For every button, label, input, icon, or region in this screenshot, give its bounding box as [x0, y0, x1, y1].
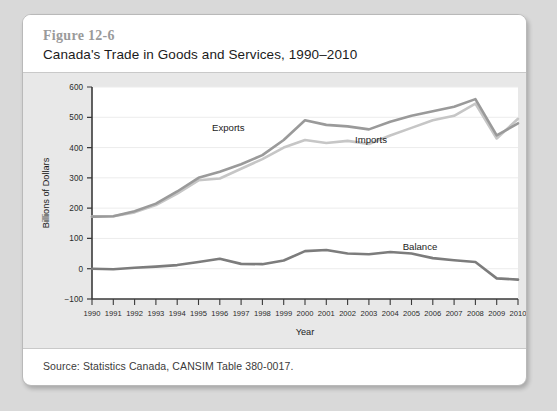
figure-source: Source: Statistics Canada, CANSIM Table …: [43, 360, 526, 372]
x-axis-tick-label: 1996: [211, 309, 228, 318]
x-axis-title: Year: [296, 327, 315, 337]
x-axis-tick-label: 2008: [467, 309, 484, 318]
y-axis-tick-label: 200: [69, 204, 83, 213]
y-axis-tick-label: 400: [69, 143, 83, 152]
line-chart: 6005004003002001000−100Billions of Dolla…: [23, 73, 526, 348]
x-axis-tick-label: 2003: [360, 309, 377, 318]
y-axis-tick-label: 500: [69, 113, 83, 122]
x-axis-tick-label: 1999: [275, 309, 292, 318]
y-axis-tick-label: 0: [78, 264, 83, 273]
figure-number: Figure 12-6: [43, 27, 526, 45]
x-axis-tick-label: 1990: [84, 309, 101, 318]
x-axis-tick-label: 2007: [446, 309, 463, 318]
y-axis-tick-label: 100: [69, 234, 83, 243]
x-axis-tick-label: 2006: [424, 309, 441, 318]
x-axis-tick-label: 2010: [510, 309, 526, 318]
x-axis-tick-label: 1994: [169, 309, 186, 318]
series-label-imports: Imports: [355, 134, 387, 145]
x-axis-tick-label: 1992: [126, 309, 143, 318]
x-axis-tick-label: 2005: [403, 309, 420, 318]
series-label-balance: Balance: [403, 241, 438, 252]
x-axis-tick-label: 1993: [147, 309, 164, 318]
y-axis-tick-label: −100: [65, 295, 84, 304]
x-axis-tick-label: 2004: [382, 309, 399, 318]
x-axis-tick-label: 2002: [339, 309, 356, 318]
x-axis-tick-label: 1995: [190, 309, 207, 318]
x-axis-tick-label: 2001: [318, 309, 335, 318]
x-axis-tick-label: 1997: [233, 309, 250, 318]
figure-footer: Source: Statistics Canada, CANSIM Table …: [23, 349, 526, 372]
y-axis-title: Billions of Dollars: [41, 157, 51, 228]
x-axis-tick-label: 1998: [254, 309, 271, 318]
x-axis-tick-label: 2009: [488, 309, 505, 318]
y-axis-tick-label: 300: [69, 174, 83, 183]
figure-title: Canada's Trade in Goods and Services, 19…: [43, 46, 526, 64]
figure-header: Figure 12-6 Canada's Trade in Goods and …: [23, 15, 526, 72]
x-axis-tick-label: 1991: [105, 309, 122, 318]
y-axis-tick-label: 600: [69, 83, 83, 92]
figure-card: Figure 12-6 Canada's Trade in Goods and …: [22, 14, 527, 386]
x-axis-tick-label: 2000: [297, 309, 314, 318]
chart-region: 6005004003002001000−100Billions of Dolla…: [23, 72, 526, 349]
series-label-exports: Exports: [212, 122, 245, 133]
